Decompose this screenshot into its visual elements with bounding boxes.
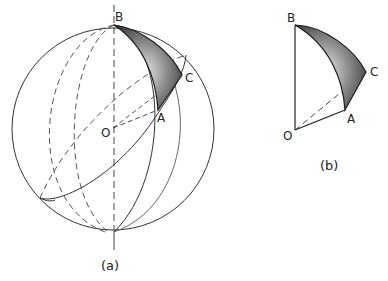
spherical-triangle-a (114, 25, 182, 110)
label-O-a: O (101, 126, 110, 140)
caption-b: (b) (320, 158, 338, 173)
spherical-triangle-b (295, 25, 366, 110)
edge-OA (295, 110, 345, 130)
figure-a-sphere (12, 5, 214, 250)
label-C-a: C (185, 71, 193, 85)
label-C-b: C (370, 65, 378, 79)
label-O-b: O (283, 129, 292, 143)
label-A-a: A (157, 111, 166, 125)
label-B-a: B (115, 10, 123, 24)
caption-a: (a) (101, 258, 119, 273)
label-B-b: B (287, 11, 295, 25)
diagram-canvas: B C A O (a) B C A O (b) (0, 0, 388, 281)
sphere-outline (12, 28, 214, 230)
radius-OA (113, 110, 158, 128)
label-A-b: A (347, 112, 356, 126)
